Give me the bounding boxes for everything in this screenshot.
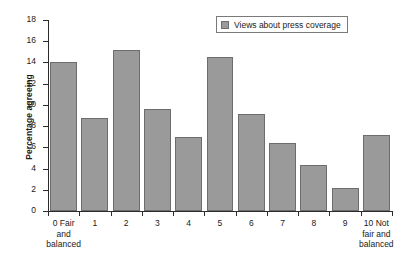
y-axis-tick-label: 10 <box>0 99 36 109</box>
chart-legend: Views about press coverage <box>216 16 348 33</box>
x-axis-tick <box>111 211 112 216</box>
x-axis-tick <box>361 211 362 216</box>
y-axis-tick-label: 2 <box>0 184 36 194</box>
y-axis-tick-label: 0 <box>0 205 36 215</box>
bar <box>332 188 359 211</box>
bar <box>81 118 108 211</box>
bar <box>363 135 390 211</box>
x-axis-tick <box>79 211 80 216</box>
y-axis-tick-label: 4 <box>0 163 36 173</box>
x-axis-tick <box>298 211 299 216</box>
bar <box>300 165 327 211</box>
bar <box>175 137 202 211</box>
x-axis-tick <box>392 211 393 216</box>
x-axis-tick <box>267 211 268 216</box>
x-axis-tick <box>236 211 237 216</box>
y-axis-tick-label: 6 <box>0 141 36 151</box>
x-axis-tick <box>329 211 330 216</box>
x-axis-line <box>48 211 392 212</box>
bar <box>50 62 77 211</box>
y-axis-tick-label: 12 <box>0 78 36 88</box>
bar <box>269 143 296 211</box>
x-axis-tick <box>204 211 205 216</box>
bar <box>238 114 265 211</box>
bar <box>144 109 171 211</box>
legend-label: Views about press coverage <box>234 20 341 30</box>
y-axis-tick-label: 8 <box>0 120 36 130</box>
bar <box>207 57 234 211</box>
x-axis-tick <box>142 211 143 216</box>
square-swatch-icon <box>221 21 229 29</box>
y-axis-tick-label: 14 <box>0 56 36 66</box>
bar-series <box>48 20 392 211</box>
x-axis-tick <box>173 211 174 216</box>
bar-chart: Percentage agreeing 024681012141618 0 Fa… <box>0 0 409 274</box>
x-axis-tick-label: 10 Not fair and balanced <box>348 218 404 250</box>
plot-area <box>48 20 392 211</box>
x-axis-tick <box>48 211 49 216</box>
bar <box>113 50 140 211</box>
y-axis-tick-label: 18 <box>0 14 36 24</box>
y-axis-tick-label: 16 <box>0 35 36 45</box>
